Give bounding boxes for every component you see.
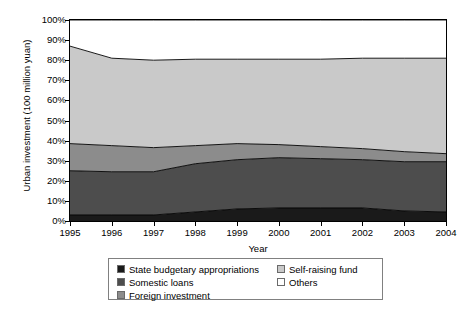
y-axis-tick-mark <box>65 141 69 142</box>
x-axis-title: Year <box>69 243 447 254</box>
legend-item-label: Others <box>289 277 318 288</box>
y-axis-tick-mark <box>65 221 69 222</box>
x-axis-tick-mark <box>404 222 405 226</box>
legend-swatch-icon <box>117 278 125 286</box>
legend-item[interactable]: Self-raising fund <box>277 263 358 275</box>
stacked-area-svg <box>70 20 446 221</box>
legend-item-label: Self-raising fund <box>289 264 358 275</box>
x-axis-tick-label: 2003 <box>384 227 424 238</box>
legend-item[interactable]: Foreign investment <box>117 289 259 301</box>
x-axis-tick-mark <box>446 222 447 226</box>
x-axis-tick-label: 2004 <box>426 227 463 238</box>
y-axis-tick-mark <box>65 201 69 202</box>
y-axis-tick-mark <box>65 80 69 81</box>
y-axis-tick-mark <box>65 181 69 182</box>
plot-area <box>69 19 447 222</box>
y-axis-tick-label: 40% <box>30 136 66 146</box>
legend-swatch-icon <box>117 265 125 273</box>
x-axis-tick-label: 1996 <box>92 227 132 238</box>
x-axis-tick-mark <box>195 222 196 226</box>
legend-item[interactable]: Others <box>277 276 358 288</box>
x-axis-tick-label: 2001 <box>301 227 341 238</box>
y-axis-tick-mark <box>65 121 69 122</box>
x-axis-tick-label: 2002 <box>342 227 382 238</box>
x-axis-tick-mark <box>321 222 322 226</box>
y-axis-tick-label: 50% <box>30 116 66 126</box>
chart-figure: Urban investment (100 million yuan) 100%… <box>0 0 463 319</box>
legend-item-label: Somestic loans <box>129 277 193 288</box>
area-series-others <box>70 20 446 60</box>
legend-item[interactable]: State budgetary appropriations <box>117 263 259 275</box>
legend-item-label: State budgetary appropriations <box>129 264 259 275</box>
legend-column-1: State budgetary appropriationsSomestic l… <box>117 263 259 302</box>
y-axis-tick-label: 20% <box>30 176 66 186</box>
x-axis-tick-mark <box>279 222 280 226</box>
y-axis-tick-label: 10% <box>30 196 66 206</box>
y-axis-tick-mark <box>65 100 69 101</box>
y-axis-tick-mark <box>65 40 69 41</box>
x-axis-tick-mark <box>70 222 71 226</box>
y-axis-tick-mark <box>65 60 69 61</box>
y-axis-tick-mark <box>65 20 69 21</box>
y-axis-tick-label: 30% <box>30 156 66 166</box>
x-axis-tick-label: 1995 <box>50 227 90 238</box>
y-axis-tick-label: 70% <box>30 75 66 85</box>
area-series-self-raising-fund <box>70 46 446 154</box>
x-axis-tick-mark <box>362 222 363 226</box>
x-axis-tick-label: 1999 <box>217 227 257 238</box>
x-axis-tick-label: 2000 <box>259 227 299 238</box>
legend-column-2: Self-raising fundOthers <box>277 263 358 289</box>
legend-swatch-icon <box>277 265 285 273</box>
legend-item[interactable]: Somestic loans <box>117 276 259 288</box>
x-axis-tick-mark <box>237 222 238 226</box>
y-axis-tick-mark <box>65 161 69 162</box>
chart-legend: State budgetary appropriationsSomestic l… <box>108 258 383 300</box>
legend-item-label: Foreign investment <box>129 290 210 301</box>
y-axis-tick-label: 60% <box>30 95 66 105</box>
x-axis-tick-label: 1997 <box>134 227 174 238</box>
y-axis-tick-label: 80% <box>30 55 66 65</box>
x-axis-tick-label: 1998 <box>175 227 215 238</box>
legend-swatch-icon <box>117 291 125 299</box>
y-axis-tick-labels: 100%90%80%70%60%50%40%30%20%10%0% <box>26 0 66 319</box>
y-axis-tick-label: 0% <box>30 216 66 226</box>
y-axis-tick-label: 100% <box>30 15 66 25</box>
x-axis-tick-mark <box>154 222 155 226</box>
y-axis-tick-label: 90% <box>30 35 66 45</box>
legend-swatch-icon <box>277 278 285 286</box>
x-axis-tick-mark <box>112 222 113 226</box>
